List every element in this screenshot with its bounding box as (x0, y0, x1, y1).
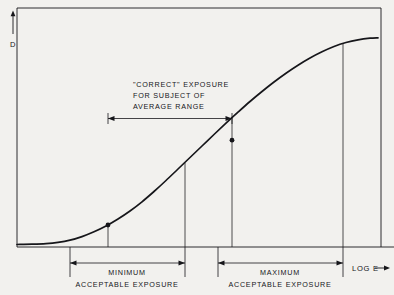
maximum-useful-density-point (230, 138, 235, 143)
correct-exposure-line1: "CORRECT" EXPOSURE (133, 80, 229, 89)
maximum-exposure-line2: ACCEPTABLE EXPOSURE (228, 280, 331, 289)
minimum-exposure-line2: ACCEPTABLE EXPOSURE (75, 280, 178, 289)
minimum-useful-density-point (106, 223, 111, 228)
correct-exposure-line3: AVERAGE RANGE (133, 102, 205, 111)
correct-exposure-line2: FOR SUBJECT OF (133, 91, 205, 100)
x-axis-label: LOG E (352, 264, 379, 273)
maximum-exposure-line1: MAXIMUM (260, 268, 300, 277)
characteristic-curve-figure: D "CORRECT" EXPOSURE FOR SUBJECT OF AVER… (0, 0, 394, 295)
figure-background (0, 0, 394, 295)
y-axis-label: D (10, 40, 16, 49)
minimum-exposure-line1: MINIMUM (108, 268, 146, 277)
